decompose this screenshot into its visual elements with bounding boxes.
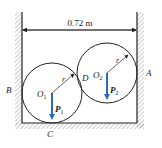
center-label-o2: O2 <box>93 70 103 81</box>
two-cylinders-in-box-diagram: 0.72 m r O1 P1 r O2 P2 B A C D <box>0 0 162 148</box>
cylinder-1: r O1 P1 <box>22 63 82 123</box>
force-label-p1: P1 <box>55 104 64 115</box>
point-label-a: A <box>145 68 152 78</box>
width-dimension: 0.72 m <box>23 18 136 30</box>
dimension-label: 0.72 m <box>67 18 92 28</box>
radius-label-1: r <box>62 75 66 84</box>
floor <box>15 123 144 129</box>
point-label-b: B <box>6 85 12 95</box>
right-wall <box>137 12 144 128</box>
point-label-d: D <box>81 73 89 83</box>
force-label-p2: P2 <box>110 85 119 96</box>
center-label-o1: O1 <box>37 89 47 100</box>
radius-label-2: r <box>116 56 120 65</box>
left-wall <box>15 12 22 125</box>
point-label-c: C <box>47 129 54 139</box>
